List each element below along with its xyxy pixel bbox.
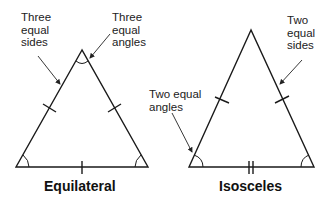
label-line: Two [287,14,315,27]
label-line: equal [287,27,315,40]
label-line: sides [21,36,51,49]
arrow-angles-isosceles [172,113,192,152]
label-three-equal-sides: Three equal sides [21,11,51,49]
label-two-equal-angles: Two equal angles [149,88,201,113]
label-line: Two equal [149,88,201,101]
arrow-sides-equilateral [38,56,60,84]
label-line: equal [21,24,51,37]
label-line: Three [21,11,51,24]
isosceles-triangle [189,30,314,174]
label-three-equal-angles: Three equal angles [112,11,146,49]
isosceles-title: Isosceles [219,178,282,194]
label-line: angles [149,101,201,114]
equilateral-title: Equilateral [44,178,116,194]
arrow-sides-isosceles [280,60,302,84]
label-line: Three [112,11,146,24]
label-two-equal-sides: Two equal sides [287,14,315,52]
equilateral-triangle [16,50,148,174]
label-line: equal [112,24,146,37]
arrow-angles-equilateral [90,34,110,58]
label-line: sides [287,39,315,52]
label-line: angles [112,36,146,49]
